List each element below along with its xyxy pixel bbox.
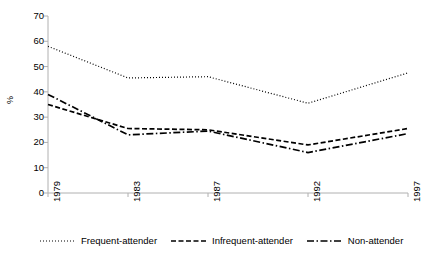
x-tick-label-1987: 1987 <box>212 181 222 202</box>
chart-legend: Frequent-attenderInfrequent-attenderNon-… <box>40 232 410 250</box>
axis-ticks <box>44 16 408 197</box>
series-line-non-attender <box>48 94 408 152</box>
legend-label: Infrequent-attender <box>212 236 293 246</box>
legend-entry-infrequent-attender[interactable]: Infrequent-attender <box>171 236 293 246</box>
data-series-group <box>48 46 408 152</box>
legend-swatch-icon <box>307 237 343 245</box>
series-line-infrequent-attender <box>48 105 408 145</box>
legend-swatch-icon <box>171 237 207 245</box>
x-tick-label-1979: 1979 <box>52 181 62 202</box>
legend-entry-non-attender[interactable]: Non-attender <box>307 236 403 246</box>
legend-label: Non-attender <box>348 236 403 246</box>
x-tick-label-1997: 1997 <box>412 181 422 202</box>
legend-swatch-icon <box>40 237 76 245</box>
series-line-frequent-attender <box>48 46 408 103</box>
legend-label: Frequent-attender <box>81 236 157 246</box>
legend-entry-frequent-attender[interactable]: Frequent-attender <box>40 236 157 246</box>
x-tick-label-1983: 1983 <box>132 181 142 202</box>
x-tick-label-1992: 1992 <box>312 181 322 202</box>
